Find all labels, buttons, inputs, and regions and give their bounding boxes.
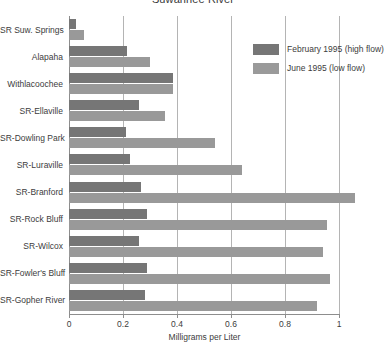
chart-container: Suwannee River SR Suw. SpringsAlapahaWit… <box>0 0 386 347</box>
legend-label: February 1995 (high flow) <box>287 44 384 54</box>
chart-title: Suwannee River <box>0 0 386 5</box>
x-axis-tick-label: 0.2 <box>117 319 129 329</box>
bar <box>69 30 84 40</box>
bar <box>69 263 147 273</box>
y-axis-label: SR-Luraville <box>0 160 63 170</box>
bar <box>69 138 215 148</box>
legend-swatch <box>253 44 279 55</box>
bar <box>69 84 173 94</box>
chart-legend: February 1995 (high flow)June 1995 (low … <box>253 43 385 81</box>
y-axis-label: SR-Branford <box>0 187 63 197</box>
bar <box>69 247 323 257</box>
bar <box>69 193 355 203</box>
legend-item: February 1995 (high flow) <box>253 43 385 58</box>
y-axis-label: SR-Fowler's Bluff <box>0 268 63 278</box>
bar <box>69 111 165 121</box>
y-axis-label: SR-Ellaville <box>0 106 63 116</box>
x-axis-title: Milligrams per Liter <box>69 332 340 342</box>
y-axis-label: SR-Wilcox <box>0 241 63 251</box>
x-axis-tick-label: 0.6 <box>225 319 237 329</box>
bar <box>69 182 141 192</box>
y-axis-label: SR Suw. Springs <box>0 25 63 35</box>
x-axis-tick <box>177 314 178 318</box>
bar <box>69 301 317 311</box>
y-axis-label: SR-Dowling Park <box>0 133 63 143</box>
y-axis-label: SR-Rock Bluff <box>0 214 63 224</box>
x-axis-tick-label: 0 <box>67 319 72 329</box>
x-axis-tick <box>339 314 340 318</box>
bar <box>69 220 327 230</box>
bar <box>69 46 127 56</box>
bar <box>69 209 147 219</box>
bar <box>69 127 126 137</box>
legend-item: June 1995 (low flow) <box>253 62 385 77</box>
legend-swatch <box>253 63 279 74</box>
x-axis-tick <box>231 314 232 318</box>
x-axis-tick <box>69 314 70 318</box>
x-axis-line <box>69 314 340 315</box>
bar <box>69 19 76 29</box>
bar <box>69 154 130 164</box>
y-axis-label: Alapaha <box>0 52 63 62</box>
bar <box>69 236 139 246</box>
bar <box>69 57 150 67</box>
x-axis-tick-label: 1 <box>337 319 342 329</box>
x-axis-tick-label: 0.8 <box>279 319 291 329</box>
bar <box>69 100 139 110</box>
bar <box>69 274 330 284</box>
x-axis-tick <box>285 314 286 318</box>
y-axis-label: SR-Gopher River <box>0 295 63 305</box>
bar <box>69 73 173 83</box>
y-axis-label: Withlacoochee <box>0 79 63 89</box>
x-axis-tick-label: 0.4 <box>171 319 183 329</box>
legend-label: June 1995 (low flow) <box>287 63 365 73</box>
bar <box>69 290 145 300</box>
bar <box>69 165 242 175</box>
x-axis-tick <box>123 314 124 318</box>
